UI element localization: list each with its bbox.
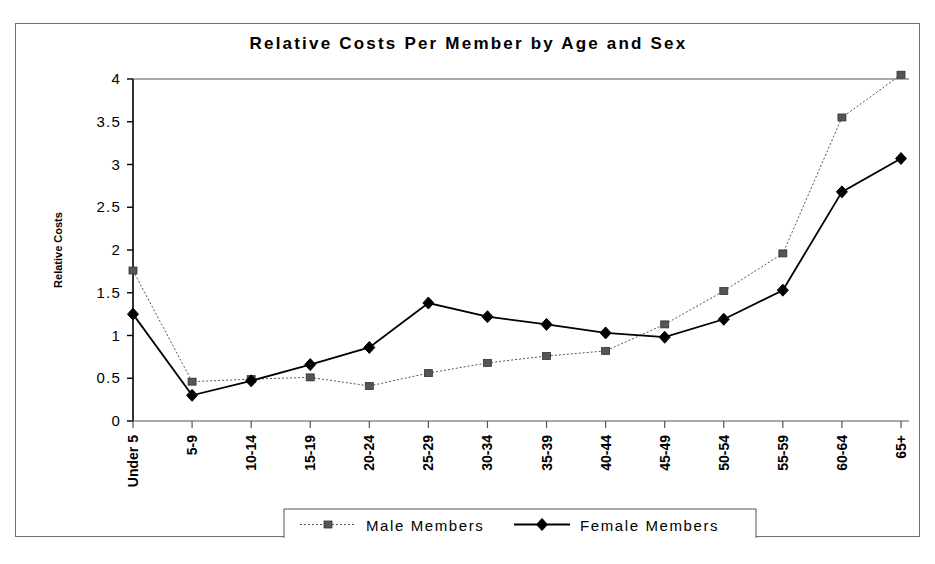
- y-tick-label: 4: [111, 70, 121, 87]
- y-tick-label: 3.5: [97, 113, 121, 130]
- data-point-marker: [423, 297, 434, 309]
- y-tick-label: 0: [111, 412, 121, 429]
- data-point-marker: [365, 382, 373, 389]
- data-point-marker: [129, 267, 137, 274]
- y-tick-label: 3: [111, 156, 121, 173]
- x-tick-label: Under 5: [125, 435, 141, 487]
- data-point-marker: [659, 331, 670, 343]
- data-point-marker: [364, 341, 375, 353]
- y-tick-label: 0.5: [97, 369, 121, 386]
- data-point-marker: [482, 311, 493, 323]
- data-point-marker: [777, 284, 788, 296]
- x-tick-label: 60-64: [834, 435, 850, 471]
- legend-label-female: Female Members: [580, 517, 719, 534]
- data-point-marker: [779, 250, 787, 257]
- chart-plot: 00.511.522.533.54Relative Costs Under 55…: [16, 24, 921, 538]
- data-point-marker: [836, 186, 847, 198]
- series-line-male: [133, 75, 901, 386]
- data-point-marker: [718, 313, 729, 325]
- data-point-marker: [188, 378, 196, 385]
- x-tick-label: 5-9: [184, 435, 200, 455]
- data-point-marker: [424, 370, 432, 377]
- x-tick-label: 55-59: [775, 435, 791, 471]
- y-tick-label: 1: [111, 327, 121, 344]
- chart-legend: Male MembersFemale Members: [284, 509, 756, 538]
- data-point-marker: [897, 71, 905, 78]
- chart-figure: Relative Costs Per Member by Age and Sex…: [15, 23, 920, 537]
- data-series-layer: [128, 71, 907, 401]
- data-point-marker: [838, 114, 846, 121]
- y-axis-title: Relative Costs: [52, 212, 64, 288]
- x-tick-label: 45-49: [657, 435, 673, 471]
- data-point-marker: [602, 347, 610, 354]
- data-point-marker: [661, 321, 669, 328]
- x-axis: Under 55-910-1415-1920-2425-2930-3435-39…: [125, 421, 909, 487]
- x-tick-label: 65+: [893, 435, 909, 459]
- legend-label-male: Male Members: [366, 517, 484, 534]
- x-tick-label: 20-24: [361, 435, 377, 471]
- data-point-marker: [305, 359, 316, 371]
- y-tick-label: 2: [111, 241, 121, 258]
- y-axis: 00.511.522.533.54Relative Costs: [52, 70, 909, 429]
- x-tick-label: 50-54: [716, 435, 732, 471]
- x-tick-label: 15-19: [302, 435, 318, 471]
- y-tick-label: 2.5: [97, 198, 121, 215]
- data-point-marker: [600, 327, 611, 339]
- data-point-marker: [720, 288, 728, 295]
- data-point-marker: [324, 521, 332, 528]
- x-tick-label: 30-34: [479, 435, 495, 471]
- x-tick-label: 35-39: [539, 435, 555, 471]
- data-point-marker: [541, 318, 552, 330]
- x-tick-label: 10-14: [243, 435, 259, 471]
- data-point-marker: [306, 374, 314, 381]
- data-point-marker: [543, 353, 551, 360]
- data-point-marker: [896, 153, 907, 165]
- data-point-marker: [483, 359, 491, 366]
- x-tick-label: 25-29: [420, 435, 436, 471]
- x-tick-label: 40-44: [598, 435, 614, 471]
- y-tick-label: 1.5: [97, 284, 121, 301]
